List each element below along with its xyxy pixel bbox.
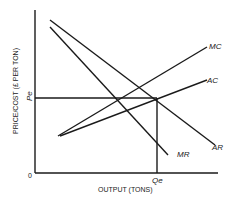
qe-label: Qe — [152, 176, 163, 185]
mc-label: MC — [209, 42, 222, 51]
mr-curve — [50, 27, 168, 155]
ar-label: AR — [211, 143, 223, 152]
pe-label: Pe — [25, 91, 34, 101]
origin-label: 0 — [28, 172, 32, 179]
x-axis-label: OUTPUT (TONS) — [98, 186, 153, 194]
ac-label: AC — [206, 76, 218, 85]
cost-revenue-diagram: MC AC AR MR Qe 0 OUTPUT (TONS) Pe PRICE/… — [0, 0, 235, 200]
ac-curve — [60, 80, 207, 136]
y-axis-label: PRICE/COST (£ PER TON) — [12, 48, 20, 134]
mr-label: MR — [177, 150, 190, 159]
